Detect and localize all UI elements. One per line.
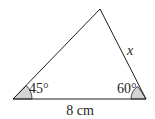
side-label-base: 8 cm (66, 103, 94, 118)
angle-label-right: 60° (117, 81, 137, 96)
triangle-diagram: 45° 60° x 8 cm (0, 0, 155, 119)
side-label-x: x (126, 43, 134, 58)
angle-label-left: 45° (29, 81, 49, 96)
